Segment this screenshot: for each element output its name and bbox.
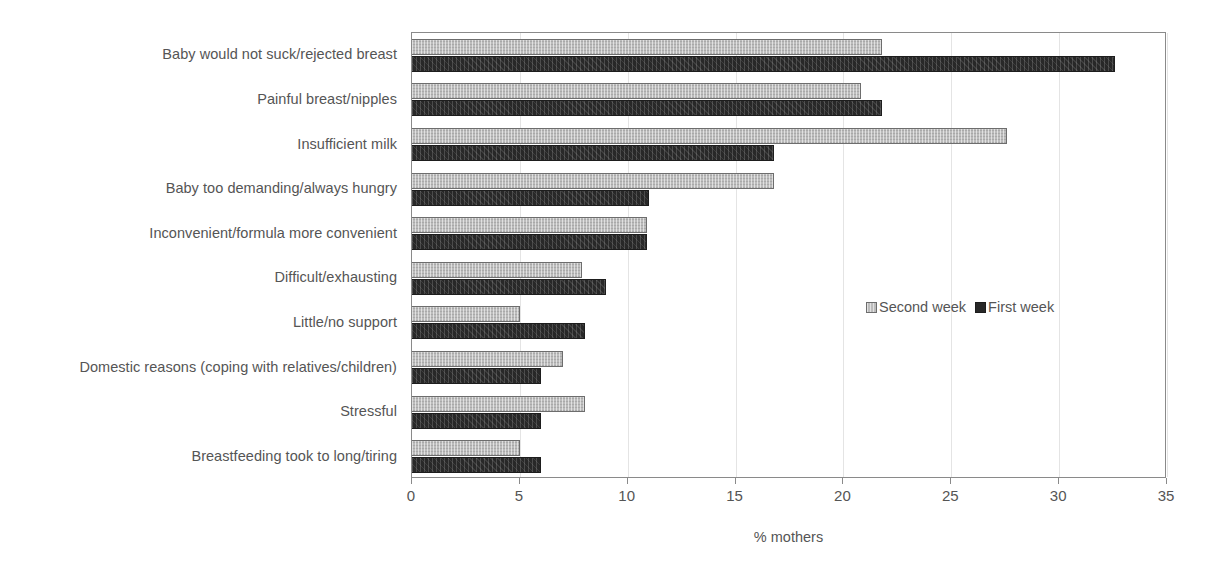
tick-mark	[411, 478, 412, 484]
bar-second-week	[412, 39, 882, 55]
gridline	[951, 33, 952, 477]
bar-second-week	[412, 217, 647, 233]
category-label: Baby too demanding/always hungry	[0, 180, 397, 196]
tick-mark	[1166, 478, 1167, 484]
gridline	[1167, 33, 1168, 477]
x-tick-label: 25	[930, 487, 970, 504]
x-tick-label: 20	[822, 487, 862, 504]
bar-second-week	[412, 396, 585, 412]
category-label: Difficult/exhausting	[0, 269, 397, 285]
bar-first-week	[412, 190, 649, 206]
legend-swatch-icon	[866, 302, 877, 313]
bar-first-week	[412, 100, 882, 116]
bar-second-week	[412, 128, 1007, 144]
x-tick-label: 35	[1146, 487, 1186, 504]
category-label: Insufficient milk	[0, 136, 397, 152]
bar-first-week	[412, 457, 541, 473]
category-label: Domestic reasons (coping with relatives/…	[0, 359, 397, 375]
tick-mark	[519, 478, 520, 484]
bar-first-week	[412, 368, 541, 384]
x-tick-label: 30	[1038, 487, 1078, 504]
gridline	[1059, 33, 1060, 477]
tick-mark	[627, 478, 628, 484]
bar-second-week	[412, 173, 774, 189]
tick-mark	[842, 478, 843, 484]
category-label: Little/no support	[0, 314, 397, 330]
legend-label: First week	[988, 300, 1054, 315]
category-label: Painful breast/nipples	[0, 91, 397, 107]
bar-first-week	[412, 413, 541, 429]
legend-swatch-icon	[975, 302, 986, 313]
plot-area	[411, 32, 1166, 478]
tick-mark	[950, 478, 951, 484]
bar-first-week	[412, 234, 647, 250]
category-label: Stressful	[0, 403, 397, 419]
bar-first-week	[412, 56, 1115, 72]
chart-legend: Second weekFirst week	[866, 300, 1054, 315]
tick-mark	[1058, 478, 1059, 484]
bar-second-week	[412, 262, 582, 278]
legend-label: Second week	[879, 300, 966, 315]
bar-second-week	[412, 440, 520, 456]
x-axis-title: % mothers	[411, 529, 1166, 545]
bar-second-week	[412, 306, 520, 322]
x-tick-label: 0	[391, 487, 431, 504]
category-axis-labels: Baby would not suck/rejected breastPainf…	[0, 32, 405, 478]
tick-mark	[735, 478, 736, 484]
bar-chart: Baby would not suck/rejected breastPainf…	[0, 0, 1222, 578]
legend-entry: Second week	[866, 300, 966, 315]
bar-first-week	[412, 145, 774, 161]
category-label: Inconvenient/formula more convenient	[0, 225, 397, 241]
legend-entry: First week	[975, 300, 1054, 315]
category-label: Baby would not suck/rejected breast	[0, 46, 397, 62]
x-tick-label: 15	[715, 487, 755, 504]
x-tick-label: 10	[607, 487, 647, 504]
x-tick-label: 5	[499, 487, 539, 504]
bar-second-week	[412, 83, 861, 99]
category-label: Breastfeeding took to long/tiring	[0, 448, 397, 464]
bar-second-week	[412, 351, 563, 367]
bar-first-week	[412, 323, 585, 339]
bar-first-week	[412, 279, 606, 295]
